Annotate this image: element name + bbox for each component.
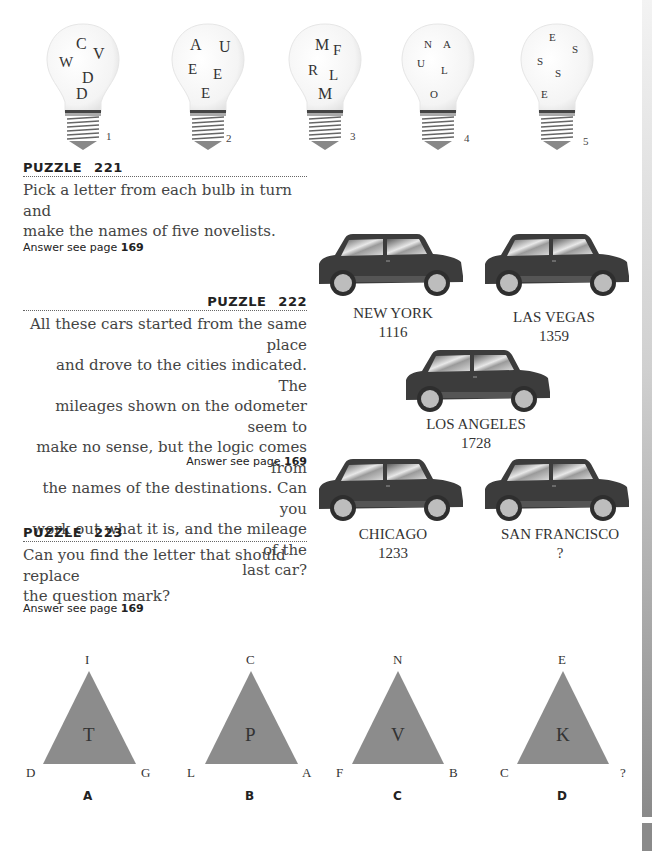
puzzle-223-heading: PUZZLE223 bbox=[23, 525, 307, 542]
text-line: and drove to the cities indicated. The bbox=[23, 355, 307, 396]
right-letter: ? bbox=[620, 766, 626, 779]
bulb-5: E S S S E 5 bbox=[517, 2, 597, 152]
bulb-number: 1 bbox=[106, 130, 112, 142]
triangle-label-c: C bbox=[393, 789, 402, 803]
left-letter: L bbox=[187, 766, 195, 779]
right-letter: G bbox=[141, 766, 150, 779]
puzzle-label: PUZZLE bbox=[23, 160, 82, 175]
answer-page: 169 bbox=[121, 241, 144, 254]
bulb-3: M F R L M 3 bbox=[285, 2, 365, 152]
right-letter: B bbox=[449, 766, 458, 779]
bulb-2: A U E E E 2 bbox=[168, 2, 248, 152]
car-label-chicago: CHICAGO 1233 bbox=[308, 525, 478, 563]
page-edge-tab-lower bbox=[642, 823, 652, 851]
car-label-las-vegas: LAS VEGAS 1359 bbox=[469, 308, 639, 346]
apex-letter: E bbox=[558, 653, 566, 666]
center-letter: T bbox=[83, 725, 95, 744]
bulb-letter: L bbox=[441, 65, 448, 76]
triangle-icon bbox=[336, 650, 486, 800]
car-new-york bbox=[313, 228, 465, 300]
bulb-letter: E bbox=[549, 32, 556, 43]
answer-prefix: Answer see page bbox=[23, 241, 117, 254]
left-letter: F bbox=[336, 766, 343, 779]
car-icon bbox=[479, 228, 631, 300]
triangle-a: I D G T bbox=[25, 650, 175, 800]
answer-prefix: Answer see page bbox=[23, 602, 117, 615]
center-letter: P bbox=[245, 725, 256, 744]
bulb-letter: M bbox=[318, 86, 332, 102]
car-los-angeles bbox=[400, 344, 552, 416]
apex-letter: N bbox=[393, 653, 402, 666]
lightbulb-icon bbox=[398, 2, 478, 152]
car-icon bbox=[479, 453, 631, 525]
mileage: 1728 bbox=[391, 434, 561, 453]
city-name: CHICAGO bbox=[308, 525, 478, 544]
bulb-letter: A bbox=[443, 39, 451, 50]
bulb-letter: S bbox=[555, 68, 561, 79]
bulb-number: 5 bbox=[583, 135, 589, 147]
text-line: mileages shown on the odometer seem to bbox=[23, 396, 307, 437]
car-icon bbox=[313, 453, 465, 525]
triangle-b: C L A P bbox=[187, 650, 337, 800]
bulb-letter: C bbox=[76, 36, 87, 52]
car-icon bbox=[400, 344, 552, 416]
city-name: LAS VEGAS bbox=[469, 308, 639, 327]
puzzle-221-answer-ref: Answer see page 169 bbox=[23, 241, 144, 254]
puzzle-221-heading: PUZZLE221 bbox=[23, 160, 307, 177]
bulb-1: C V W D D 1 bbox=[43, 2, 123, 152]
bulb-letter: N bbox=[424, 39, 432, 50]
car-las-vegas bbox=[479, 228, 631, 300]
left-letter: C bbox=[500, 766, 509, 779]
puzzle-number: 223 bbox=[94, 525, 123, 540]
mileage: 1116 bbox=[308, 323, 478, 342]
bulb-letter: A bbox=[190, 37, 202, 53]
car-san-francisco bbox=[479, 453, 631, 525]
bulb-number: 2 bbox=[226, 132, 232, 144]
text-line: Pick a letter from each bulb in turn and bbox=[23, 180, 323, 221]
triangle-icon bbox=[187, 650, 337, 800]
bulb-letter: R bbox=[308, 63, 318, 78]
apex-letter: I bbox=[85, 653, 89, 666]
lightbulb-icon bbox=[168, 2, 248, 152]
puzzle-222-answer-ref: Answer see page 169 bbox=[23, 455, 307, 468]
center-letter: K bbox=[556, 725, 570, 744]
puzzle-221-text: Pick a letter from each bulb in turn and… bbox=[23, 180, 323, 242]
triangle-d: E C ? K bbox=[500, 650, 650, 800]
bulb-letter: E bbox=[213, 67, 222, 82]
bulb-letter: V bbox=[93, 46, 105, 62]
puzzle-223-answer-ref: Answer see page 169 bbox=[23, 602, 144, 615]
city-name: SAN FRANCISCO bbox=[475, 525, 645, 544]
bulb-letter: D bbox=[82, 70, 94, 86]
car-label-san-francisco: SAN FRANCISCO ? bbox=[475, 525, 645, 563]
left-letter: D bbox=[26, 766, 35, 779]
puzzle-number: 222 bbox=[278, 294, 307, 309]
apex-letter: C bbox=[246, 653, 255, 666]
bulb-letter: S bbox=[537, 56, 543, 67]
bulb-letter: E bbox=[541, 89, 548, 100]
triangle-label-b: B bbox=[245, 789, 254, 803]
bulb-4: N A U L O 4 bbox=[398, 2, 478, 152]
triangle-c: N F B V bbox=[336, 650, 486, 800]
text-line: All these cars started from the same pla… bbox=[23, 314, 307, 355]
text-line: Can you find the letter that should repl… bbox=[23, 545, 323, 586]
car-label-new-york: NEW YORK 1116 bbox=[308, 304, 478, 342]
answer-prefix: Answer see page bbox=[186, 455, 280, 468]
bulb-letter: U bbox=[417, 58, 425, 69]
bulb-letter: M bbox=[315, 37, 329, 53]
triangle-icon bbox=[25, 650, 175, 800]
triangle-label-a: A bbox=[83, 789, 92, 803]
car-label-los-angeles: LOS ANGELES 1728 bbox=[391, 415, 561, 453]
text-line: make the names of five novelists. bbox=[23, 221, 323, 242]
city-name: NEW YORK bbox=[308, 304, 478, 323]
bulb-letter: U bbox=[219, 39, 231, 55]
city-name: LOS ANGELES bbox=[391, 415, 561, 434]
bulb-letter: F bbox=[333, 43, 341, 58]
bulb-letter: W bbox=[59, 55, 73, 70]
car-chicago bbox=[313, 453, 465, 525]
answer-page: 169 bbox=[121, 602, 144, 615]
puzzle-223-text: Can you find the letter that should repl… bbox=[23, 545, 323, 607]
right-letter: A bbox=[302, 766, 311, 779]
bulb-letter: O bbox=[430, 89, 438, 100]
bulb-number: 4 bbox=[464, 132, 470, 144]
mileage: 1233 bbox=[308, 544, 478, 563]
